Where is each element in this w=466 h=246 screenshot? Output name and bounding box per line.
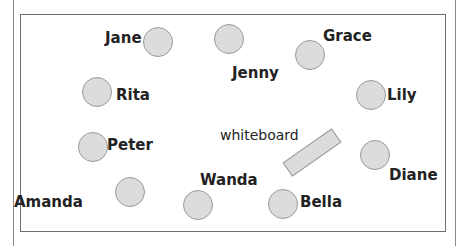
seat-wanda xyxy=(183,190,213,220)
name-label-lily: Lily xyxy=(387,88,417,103)
name-label-peter: Peter xyxy=(107,138,153,153)
seat-diane xyxy=(360,140,390,170)
seat-jane xyxy=(143,27,173,57)
seat-jenny xyxy=(214,24,244,54)
name-label-jenny: Jenny xyxy=(232,66,279,81)
name-label-bella: Bella xyxy=(300,195,342,210)
seat-amanda xyxy=(115,177,145,207)
seat-peter xyxy=(78,132,108,162)
name-label-wanda: Wanda xyxy=(200,173,258,188)
name-label-jane: Jane xyxy=(105,31,142,46)
whiteboard-label: whiteboard xyxy=(220,128,299,142)
seat-rita xyxy=(82,77,112,107)
name-label-grace: Grace xyxy=(323,29,372,44)
name-label-rita: Rita xyxy=(116,88,150,103)
name-label-diane: Diane xyxy=(389,168,438,183)
seat-grace xyxy=(295,40,325,70)
outer-right-border xyxy=(455,0,456,246)
name-label-amanda: Amanda xyxy=(14,195,83,210)
seat-lily xyxy=(356,80,386,110)
seat-bella xyxy=(268,189,298,219)
